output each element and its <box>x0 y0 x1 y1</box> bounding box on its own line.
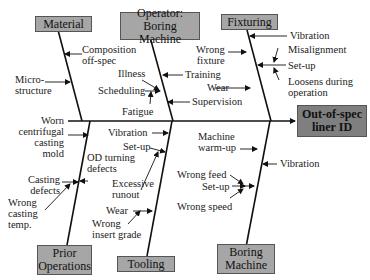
category-label: Material <box>43 18 84 31</box>
cause-text: Wrong <box>8 197 38 208</box>
cause-wrong-casting-temp: Wrong casting temp. <box>8 197 38 230</box>
category-label: Operations <box>38 260 91 273</box>
cause-wrong-feed: Wrong feed <box>177 169 226 180</box>
cause-text: Wrong <box>196 44 225 55</box>
cause-od-turning: OD turning defects <box>87 152 135 174</box>
cause-text: operation <box>288 87 353 98</box>
cause-wrong-insert: Wrong insert grade <box>92 218 141 240</box>
cause-excessive-runout: Excessive runout <box>112 178 154 200</box>
cause-text: Loosens during <box>288 76 353 87</box>
cause-text: defects <box>87 163 135 174</box>
cause-casting-defects: Casting defects <box>20 174 60 196</box>
bone-fixturing <box>247 30 271 121</box>
category-fixturing: Fixturing <box>221 14 278 30</box>
effect-label: liner ID <box>312 121 352 134</box>
cause-vibration-boring: Vibration <box>280 158 320 169</box>
cause-training: Training <box>185 69 221 80</box>
cause-text: warm-up <box>198 142 236 153</box>
cause-text: Machine <box>198 131 236 142</box>
cause-setup-fixturing: Set-up <box>288 60 315 71</box>
category-tooling: Tooling <box>117 256 175 272</box>
cause-wear-tooling: Wear <box>106 205 128 216</box>
category-boring-machine: Boring Machine <box>217 244 275 274</box>
cause-fatigue: Fatigue <box>122 106 154 117</box>
cause-supervision: Supervision <box>192 96 242 107</box>
cause-text: OD turning <box>87 152 135 163</box>
cause-wrong-fixture: Wrong fixture <box>196 44 225 66</box>
cause-illness: Illness <box>118 68 145 79</box>
category-label: Operator: <box>137 7 183 20</box>
category-operator: Operator: Boring Machine <box>120 12 200 40</box>
bone-prior <box>67 121 90 245</box>
cause-vibration-tooling: Vibration <box>108 127 148 138</box>
category-label: Fixturing <box>227 16 272 29</box>
bone-material <box>58 30 82 121</box>
effect-box: Out-of-spec liner ID <box>297 105 367 137</box>
cause-text: Wrong <box>92 218 141 229</box>
cause-setup-tooling: Set-up <box>123 141 150 152</box>
category-label: Boring Machine <box>121 20 199 46</box>
category-label: Machine <box>225 259 267 272</box>
cause-microstructure: Micro- structure <box>15 74 52 96</box>
cause-vibration-fixturing: Vibration <box>290 30 330 41</box>
cause-misalignment: Misalignment <box>288 44 346 55</box>
cause-loosens: Loosens during operation <box>288 76 353 98</box>
category-material: Material <box>35 16 92 32</box>
cause-wrong-speed: Wrong speed <box>177 201 232 212</box>
cause-text: structure <box>15 85 52 96</box>
cause-text: casting <box>12 137 64 148</box>
cause-text: Excessive <box>112 178 154 189</box>
cause-text: defects <box>20 185 60 196</box>
category-prior-operations: Prior Operations <box>37 245 92 275</box>
cause-text: mold <box>12 148 64 159</box>
cause-text: casting <box>8 208 38 219</box>
cause-text: temp. <box>8 219 38 230</box>
bone-boring <box>246 121 270 247</box>
cause-text: fixture <box>196 55 225 66</box>
cause-scheduling: Scheduling <box>98 85 145 96</box>
cause-machine-warmup: Machine warm-up <box>198 131 236 153</box>
cause-worn-mold: Worn centrifugal casting mold <box>12 115 64 159</box>
cause-text: Casting <box>20 174 60 185</box>
cause-text: runout <box>112 189 154 200</box>
category-label: Tooling <box>127 258 164 271</box>
cause-text: off-spec <box>82 55 136 66</box>
cause-text: centrifugal <box>12 126 64 137</box>
cause-text: Worn <box>12 115 64 126</box>
cause-text: Composition <box>82 44 136 55</box>
cause-wear-operator: Wear <box>207 82 229 93</box>
cause-text: insert grade <box>92 229 141 240</box>
cause-text: Micro- <box>15 74 52 85</box>
cause-composition: Composition off-spec <box>82 44 136 66</box>
cause-setup-boring: Set-up <box>202 181 229 192</box>
